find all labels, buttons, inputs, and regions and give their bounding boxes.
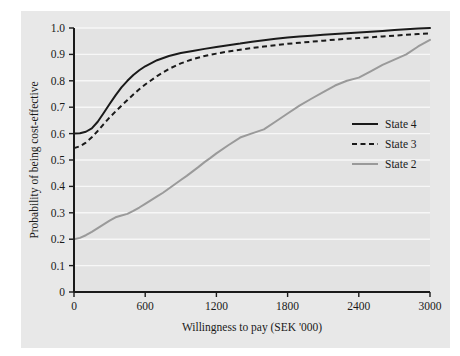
y-axis-tick-labels: 00.10.20.30.40.50.60.70.80.91.0	[51, 22, 66, 298]
cost-effectiveness-acceptability-chart: 06001200180024003000 00.10.20.30.40.50.6…	[0, 0, 460, 356]
y-axis-title: Probability of being cost-effective	[28, 81, 41, 238]
y-tick-label: 0	[59, 286, 65, 298]
legend-label-state-4: State 4	[385, 118, 417, 130]
legend-label-state-2: State 2	[385, 158, 417, 170]
plot-wrapper: 06001200180024003000 00.10.20.30.40.50.6…	[0, 0, 460, 356]
y-tick-label: 0.9	[51, 48, 66, 60]
x-tick-label: 1800	[276, 300, 299, 312]
y-tick-label: 0.5	[51, 154, 66, 166]
y-tick-label: 0.8	[51, 75, 66, 87]
x-tick-label: 3000	[419, 300, 442, 312]
x-tick-label: 1200	[205, 300, 228, 312]
legend-label-state-3: State 3	[385, 138, 417, 150]
y-tick-label: 0.1	[51, 260, 66, 272]
y-tick-label: 0.6	[51, 128, 66, 140]
x-axis-tick-labels: 06001200180024003000	[71, 300, 442, 312]
y-tick-label: 0.2	[51, 233, 66, 245]
y-tick-label: 1.0	[51, 22, 66, 34]
x-axis-title: Willingness to pay (SEK '000)	[182, 321, 322, 334]
figure-container: 06001200180024003000 00.10.20.30.40.50.6…	[0, 0, 460, 356]
y-tick-label: 0.4	[51, 180, 66, 192]
x-tick-label: 0	[71, 300, 77, 312]
y-tick-label: 0.3	[51, 207, 66, 219]
x-tick-label: 2400	[347, 300, 370, 312]
y-tick-label: 0.7	[51, 101, 66, 113]
x-tick-label: 600	[137, 300, 155, 312]
